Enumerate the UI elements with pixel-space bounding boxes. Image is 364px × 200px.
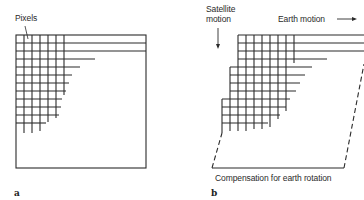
- figure-canvas: [0, 0, 364, 200]
- panel-a-diagram: [16, 26, 146, 168]
- panel-b-letter: b: [211, 188, 217, 198]
- pixels-leader-line: [25, 26, 28, 39]
- earth-motion-label: Earth motion: [278, 15, 325, 24]
- compensated-frame-left-dashed: [212, 133, 222, 168]
- panel-b-diagram: [212, 17, 364, 168]
- earth-motion-arrowhead: [352, 17, 357, 21]
- panel-a-image-frame: [16, 35, 146, 168]
- compensated-frame-right-dashed: [344, 64, 364, 168]
- satellite-motion-label-line1: Satellite: [206, 5, 235, 14]
- satellite-motion-arrowhead: [216, 44, 220, 49]
- panel-a-letter: a: [14, 188, 20, 198]
- compensation-label: Compensation for earth rotation: [215, 174, 331, 183]
- satellite-motion-label-line2: motion: [206, 15, 231, 24]
- pixels-label: Pixels: [15, 14, 37, 23]
